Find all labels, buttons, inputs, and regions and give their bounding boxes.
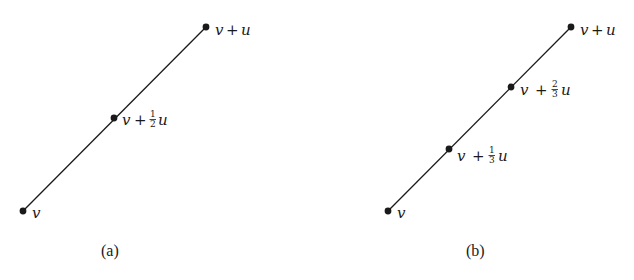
svg-text:+: + <box>535 81 548 99</box>
svg-text:1: 1 <box>489 145 495 155</box>
svg-text:u: u <box>498 147 508 165</box>
caption-a: (a) <box>101 242 119 260</box>
caption-b: (b) <box>466 242 485 260</box>
point-third-b <box>446 146 453 153</box>
segment-line-b <box>388 27 571 211</box>
svg-text:+: + <box>591 21 604 39</box>
label-v-plus-u-b: v + u <box>580 21 616 39</box>
svg-text:2: 2 <box>552 79 558 89</box>
svg-text:v: v <box>520 81 529 99</box>
svg-text:3: 3 <box>489 155 495 165</box>
label-v-two-thirds-u: v + 2 3 u <box>520 79 571 99</box>
point-v-b <box>385 208 392 215</box>
svg-text:+: + <box>134 111 147 129</box>
figure-canvas: v v + 1 2 u v + u (a) v v + 1 3 u <box>0 0 634 280</box>
label-v-b: v <box>397 204 406 222</box>
point-two-thirds-b <box>508 84 515 91</box>
point-half-a <box>111 115 118 122</box>
svg-text:u: u <box>241 21 251 39</box>
svg-text:v: v <box>580 21 589 39</box>
panel-b: v v + 1 3 u v + 2 3 u v + u (b) <box>385 21 616 260</box>
svg-text:+: + <box>226 21 239 39</box>
svg-text:u: u <box>158 111 168 129</box>
svg-text:1: 1 <box>150 109 156 119</box>
point-v-plus-u-a <box>203 24 210 31</box>
point-v-plus-u-b <box>568 24 575 31</box>
label-v-a: v <box>32 204 41 222</box>
svg-text:v: v <box>122 111 131 129</box>
label-v-half-u: v + 1 2 u <box>122 109 168 129</box>
svg-text:v: v <box>457 147 466 165</box>
svg-text:+: + <box>472 147 485 165</box>
svg-text:u: u <box>606 21 616 39</box>
svg-text:u: u <box>561 81 571 99</box>
panel-a: v v + 1 2 u v + u (a) <box>20 21 251 260</box>
svg-text:3: 3 <box>552 89 558 99</box>
svg-text:2: 2 <box>150 119 156 129</box>
svg-text:v: v <box>215 21 224 39</box>
label-v-third-u: v + 1 3 u <box>457 145 508 165</box>
label-v-plus-u-a: v + u <box>215 21 251 39</box>
point-v-a <box>20 208 27 215</box>
